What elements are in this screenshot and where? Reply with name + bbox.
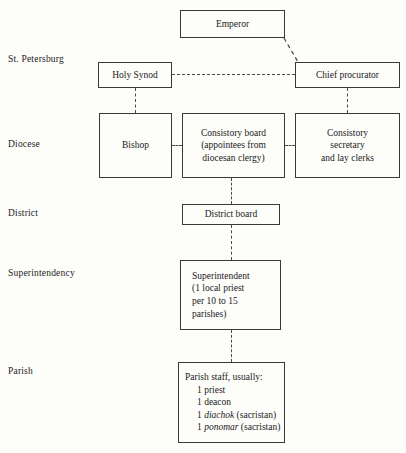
node-consistory-secretary-line-2: secretary [303,139,392,152]
parish-staff-heading: Parish staff, usually: [185,371,277,384]
connector-chief-procurator-to-consistory-secretary [347,88,348,113]
connector-holy-synod-to-bishop [135,88,136,113]
node-consistory-board-line-3: diocesan clergy) [190,152,277,165]
node-district-board[interactable]: District board [182,204,280,225]
parish-staff-item-diachok: 1 diachok (sacristan) [185,409,277,422]
node-superintendent-line-3: per 10 to 15 [192,295,273,308]
connector-consistory-board-to-consistory-secretary [285,145,295,146]
node-chief-procurator-label: Chief procurator [303,69,392,82]
node-holy-synod[interactable]: Holy Synod [98,62,172,88]
node-holy-synod-label: Holy Synod [106,69,164,82]
node-superintendent-line-1: Superintendent [192,270,273,283]
node-district-board-label: District board [190,208,272,221]
parish-staff-item-deacon: 1 deacon [185,396,277,409]
node-consistory-secretary-line-3: and lay clerks [303,152,392,165]
node-superintendent[interactable]: Superintendent (1 local priest per 10 to… [180,260,281,330]
connector-holy-synod-to-chief-procurator [172,74,295,75]
parish-staff-item-ponomar: 1 ponomar (sacristan) [185,421,277,434]
node-emperor[interactable]: Emperor [180,10,285,38]
row-label-diocese: Diocese [8,139,40,149]
node-emperor-label: Emperor [188,18,277,31]
parish-staff-item-priest: 1 priest [185,384,277,397]
node-consistory-secretary[interactable]: Consistory secretary and lay clerks [295,113,400,178]
node-superintendent-line-2: (1 local priest [192,282,273,295]
row-label-superintendency: Superintendency [8,268,75,278]
row-label-district: District [8,208,38,218]
node-parish-staff[interactable]: Parish staff, usually: 1 priest 1 deacon… [178,362,285,443]
connector-bishop-to-consistory-board [172,145,182,146]
node-superintendent-line-4: parishes) [192,308,273,321]
node-chief-procurator[interactable]: Chief procurator [295,62,400,88]
connector-district-board-to-superintendent [231,225,232,260]
connector-consistory-board-to-district-board [231,178,232,204]
node-bishop-label: Bishop [107,139,164,152]
connector-superintendent-to-parish-staff [231,330,232,362]
node-consistory-board[interactable]: Consistory board (appointees from dioces… [182,113,285,178]
node-consistory-board-line-2: (appointees from [190,139,277,152]
row-label-parish: Parish [8,366,33,376]
node-consistory-board-line-1: Consistory board [190,127,277,140]
node-consistory-secretary-line-1: Consistory [303,127,392,140]
node-bishop[interactable]: Bishop [99,113,172,178]
org-hierarchy-diagram: St. Petersburg Diocese District Superint… [0,0,406,453]
